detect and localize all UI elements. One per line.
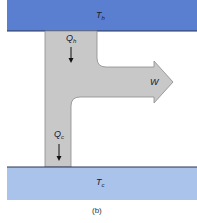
figure-caption: (b) (92, 206, 102, 215)
heat-out-label: Qc (54, 129, 64, 140)
work-label: W (150, 77, 159, 87)
hot-reservoir-label: Th (96, 10, 105, 21)
heat-in-label: Qh (66, 33, 76, 44)
cold-reservoir-label: Tc (96, 177, 105, 188)
energy-flow-shape (45, 31, 173, 167)
heat-engine-diagram (0, 0, 197, 223)
